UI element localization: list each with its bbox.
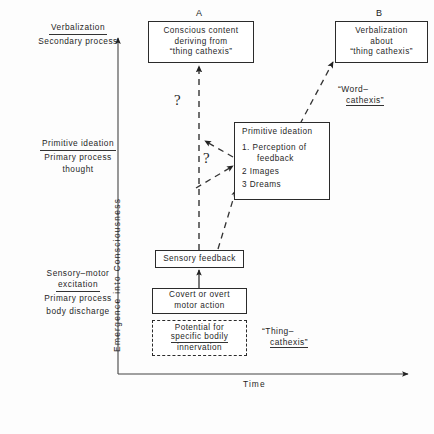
annotation-thing-cathexis-line-2: cathexis” [270, 338, 308, 348]
diagram-canvas: A B Verbalization Secondary process Prim… [0, 0, 434, 434]
stage-label-primitive-ideation-top: Primitive ideation [40, 138, 116, 151]
stage-label-verbalization-top: Verbalization [49, 22, 107, 35]
box-verbalization-about-line-1: Verbalization [355, 26, 408, 37]
box-primitive-ideation-header: Primitive ideation [242, 127, 312, 141]
box-primitive-ideation: Primitive ideation 1. Perception of feed… [234, 122, 330, 200]
box-conscious-content-line-3: “thing cathexis” [170, 47, 233, 58]
box-potential-bodily-innervation-line-3: innervation [177, 343, 222, 354]
box-covert-overt-motor-action: Covert or overt motor action [152, 288, 247, 314]
stage-label-primitive-ideation: Primitive ideation Primary process thoug… [26, 138, 130, 176]
box-primitive-ideation-item-1-text: Perception of [252, 143, 306, 152]
x-axis-label: Time [243, 379, 266, 389]
box-primitive-ideation-item-1-cont: feedback [242, 154, 307, 165]
box-primitive-ideation-item-2: 2 Images [242, 164, 279, 177]
y-axis-label: Emergence into Consciousness [112, 198, 122, 352]
box-verbalization-about-line-2: about [370, 37, 393, 48]
box-verbalization-about: Verbalization about “thing cathexis” [335, 21, 428, 63]
stage-label-primitive-ideation-bottom-1: Primary process [26, 151, 130, 163]
column-header-b: B [376, 8, 383, 19]
stage-label-verbalization: Verbalization Secondary process [26, 22, 130, 47]
annotation-word-cathexis-line-1: “Word– [338, 84, 384, 95]
stage-label-primitive-ideation-bottom-2: thought [26, 163, 130, 175]
annotation-thing-cathexis-line-1: “Thing– [262, 326, 308, 337]
box-potential-bodily-innervation: Potential for specific bodily innervatio… [152, 320, 247, 356]
stage-label-verbalization-bottom: Secondary process [26, 35, 130, 47]
stage-label-sensory-motor-top-2: excitation [56, 279, 100, 292]
annotation-thing-cathexis: “Thing– cathexis” [262, 326, 308, 349]
box-primitive-ideation-item-1-number: 1. [242, 143, 250, 152]
box-sensory-feedback-line-1: Sensory feedback [163, 254, 236, 265]
box-verbalization-about-line-3: “thing cathexis” [350, 47, 413, 58]
box-primitive-ideation-item-3-text: Dreams [250, 180, 281, 189]
connector-primitive-ideation-to-verbalization [300, 62, 333, 124]
box-covert-overt-motor-action-line-2: motor action [174, 301, 224, 312]
annotation-word-cathexis: “Word– cathexis” [338, 84, 384, 107]
box-primitive-ideation-item-2-text: Images [250, 167, 280, 176]
question-mark-lower-icon: ? [203, 150, 210, 167]
column-header-a: A [196, 8, 203, 19]
box-conscious-content: Conscious content deriving from “thing c… [148, 21, 254, 63]
annotation-word-cathexis-line-2: cathexis” [346, 96, 384, 106]
box-primitive-ideation-item-1: 1. Perception of feedback [242, 141, 307, 165]
diagram-vector-layer [0, 0, 434, 434]
question-mark-upper-icon: ? [174, 92, 181, 109]
box-primitive-ideation-item-2-number: 2 [242, 167, 247, 176]
box-conscious-content-line-1: Conscious content [163, 26, 238, 37]
box-potential-bodily-innervation-line-2: specific bodily [171, 333, 229, 343]
box-primitive-ideation-item-3: 3 Dreams [242, 178, 281, 191]
box-covert-overt-motor-action-line-1: Covert or overt [169, 290, 230, 301]
box-sensory-feedback: Sensory feedback [155, 250, 244, 268]
connector-feedback-loop-to-primitive-ideation [196, 166, 233, 188]
box-conscious-content-line-2: deriving from [174, 37, 227, 48]
box-primitive-ideation-item-3-number: 3 [242, 180, 247, 189]
